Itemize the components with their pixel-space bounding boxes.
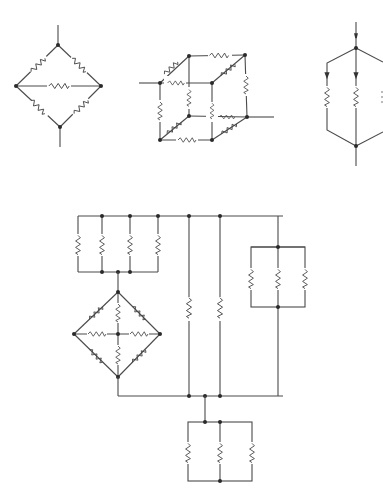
parallel-branches-diagram [321,22,383,166]
compound-network-diagram [72,214,311,483]
bridge-diagram [14,25,103,147]
cube-diagram [139,50,274,145]
circuit-figure [0,0,383,494]
